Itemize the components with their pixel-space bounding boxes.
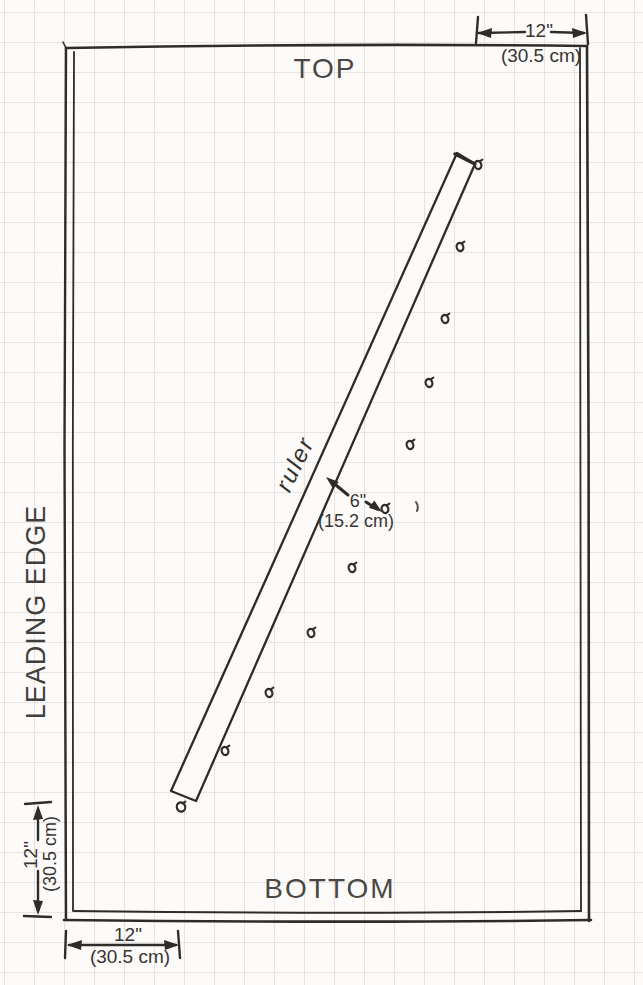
- pin-tail: [387, 504, 390, 506]
- pin-tail: [227, 746, 230, 748]
- dimension-bottom-horizontal-cm: (30.5 cm): [90, 946, 170, 968]
- dimension-ruler-offset-cm: (15.2 cm): [318, 511, 394, 532]
- pin-tail: [431, 378, 434, 380]
- pin-tail: [412, 440, 415, 442]
- dimension-top-right-cm: (30.5 cm): [501, 45, 581, 67]
- dim-tick: [178, 931, 180, 958]
- stray-marks: [416, 502, 418, 511]
- pin-tail: [447, 314, 450, 316]
- dimension-bottom-horizontal-inches: 12": [114, 924, 142, 946]
- pin-tail: [480, 160, 483, 162]
- panel-right-edge-outer: [587, 46, 589, 921]
- pin-mark: [406, 440, 415, 450]
- pin-tail: [313, 628, 316, 630]
- dim-tick: [65, 931, 66, 958]
- pin-mark: [474, 160, 483, 170]
- pin-mark: [221, 746, 230, 756]
- panel-bottom-edge-outer: [64, 920, 591, 922]
- dim-tick: [476, 17, 478, 43]
- arrowhead-right-icon: [572, 28, 587, 38]
- dim-tick: [24, 916, 51, 917]
- pin-mark: [425, 378, 434, 388]
- panel-left-edge-inner: [73, 52, 74, 911]
- pin-mark: [456, 242, 465, 252]
- label-bottom: BOTTOM: [264, 873, 395, 905]
- pin-tail: [462, 242, 465, 244]
- label-leading-edge: LEADING EDGE: [21, 505, 52, 720]
- pin-tail: [354, 563, 357, 565]
- ruler-shape-group: [171, 153, 475, 801]
- dimension-top-right-inches: 12": [525, 20, 553, 42]
- arrowhead-down-icon: [33, 900, 43, 915]
- dim-tick: [586, 15, 588, 44]
- pin-tail: [271, 688, 274, 690]
- panel-left-edge-outer: [65, 48, 67, 920]
- stray-tick-mark: [416, 502, 418, 511]
- pin-mark: [265, 688, 274, 698]
- arrowhead-left-icon: [67, 940, 82, 950]
- panel-right-edge-inner: [580, 48, 581, 911]
- dim-tick: [25, 802, 51, 804]
- diagram-drawing: [0, 0, 643, 985]
- pin-mark: [307, 628, 316, 638]
- ruler-shape: [171, 153, 475, 801]
- panel-bottom-edge-inner: [74, 911, 581, 913]
- pin-mark: [176, 801, 187, 812]
- pin-mark: [441, 314, 450, 324]
- panel-corner-stroke: [63, 42, 66, 48]
- dimension-ruler-offset-inches: 6": [350, 491, 366, 512]
- pin-mark: [348, 563, 357, 573]
- label-top: TOP: [293, 53, 356, 85]
- arrowhead-left-icon: [477, 28, 492, 38]
- dimension-left-vertical-cm: (30.5 cm): [40, 816, 61, 892]
- worksheet-diagram: TOP BOTTOM LEADING EDGE ruler 12" (30.5 …: [0, 0, 643, 985]
